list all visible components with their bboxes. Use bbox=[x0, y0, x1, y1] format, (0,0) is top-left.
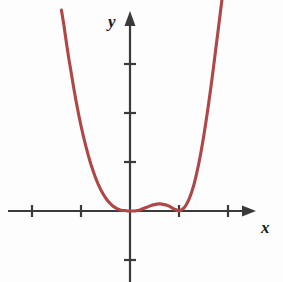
quartic-curve bbox=[61, 0, 228, 211]
y-axis-label: y bbox=[108, 13, 116, 30]
y-axis-arrowhead bbox=[125, 11, 136, 26]
graph-figure: y x bbox=[0, 0, 283, 282]
x-axis-arrowhead bbox=[242, 206, 256, 217]
plot-canvas bbox=[0, 0, 283, 282]
x-axis-label: x bbox=[261, 219, 270, 236]
axes-group bbox=[8, 11, 256, 282]
